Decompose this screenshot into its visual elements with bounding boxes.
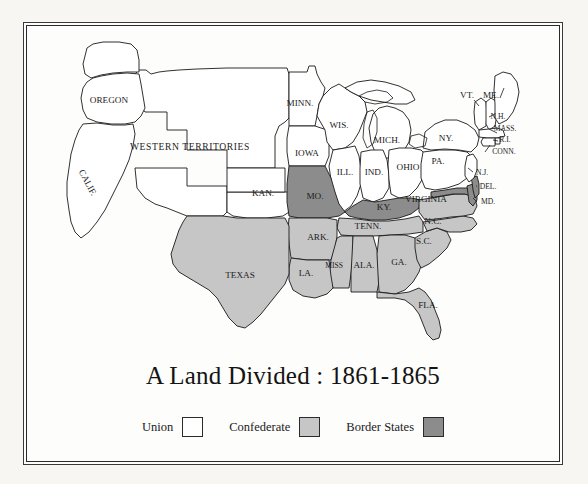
legend-swatch-border-states bbox=[423, 417, 444, 437]
state-label-fla: FLA. bbox=[418, 300, 438, 310]
state-label-pa: PA. bbox=[431, 156, 444, 166]
state-label-ri: R.I. bbox=[499, 135, 510, 144]
state-label-conn: CONN. bbox=[492, 147, 516, 156]
state-label-ark: ARK. bbox=[307, 232, 329, 242]
legend-swatch-union bbox=[182, 417, 203, 437]
state-label-kan: KAN. bbox=[252, 188, 274, 198]
state-label-texas: TEXAS bbox=[225, 270, 255, 280]
state-new-mexico-territory bbox=[135, 168, 227, 216]
state-label-mich: MICH. bbox=[374, 135, 400, 145]
map-legend: Union Confederate Border States bbox=[27, 417, 559, 437]
state-label-wis: WIS. bbox=[329, 120, 348, 130]
state-label-ind: IND. bbox=[365, 167, 384, 177]
state-label-nh: N.H. bbox=[491, 112, 506, 121]
state-iowa bbox=[287, 126, 329, 166]
state-south-carolina bbox=[415, 228, 451, 268]
state-label-ohio: OHIO bbox=[397, 162, 420, 172]
legend-label-confederate: Confederate bbox=[229, 420, 290, 435]
territory-washington bbox=[83, 42, 139, 78]
state-label-md: MD. bbox=[481, 197, 495, 206]
legend-item-border-states: Border States bbox=[346, 417, 444, 437]
state-label-ny: NY. bbox=[439, 133, 453, 143]
state-label-western-territories: WESTERN TERRITORIES bbox=[130, 141, 250, 152]
map-frame: OREGONCALIF.WESTERN TERRITORIESMINN.WIS.… bbox=[26, 25, 560, 462]
state-california bbox=[67, 123, 135, 238]
state-label-nj: N.J. bbox=[476, 168, 488, 177]
state-label-ala: ALA. bbox=[353, 260, 374, 270]
state-label-ga: GA. bbox=[391, 257, 407, 267]
state-label-la: LA. bbox=[299, 268, 314, 278]
state-label-mo: MO. bbox=[306, 191, 323, 201]
state-label-ill: ILL. bbox=[337, 167, 354, 177]
state-label-mass: MASS. bbox=[494, 124, 517, 133]
state-label-vt: VT. bbox=[460, 90, 474, 100]
state-connecticut bbox=[481, 138, 495, 146]
state-florida bbox=[377, 288, 441, 340]
state-label-oregon: OREGON bbox=[90, 95, 129, 105]
state-label-nc: N.C. bbox=[424, 216, 441, 226]
page-title: A Land Divided : 1861-1865 bbox=[27, 362, 559, 390]
state-label-miss: MISS bbox=[325, 261, 343, 270]
legend-swatch-confederate bbox=[299, 417, 320, 437]
state-label-sc: S.C. bbox=[416, 236, 432, 246]
state-label-tenn: TENN. bbox=[355, 221, 382, 231]
state-label-del: DEL. bbox=[480, 182, 497, 191]
legend-item-confederate: Confederate bbox=[229, 417, 320, 437]
united-states-map: OREGONCALIF.WESTERN TERRITORIESMINN.WIS.… bbox=[27, 26, 561, 356]
legend-label-union: Union bbox=[142, 420, 173, 435]
map-canvas: OREGONCALIF.WESTERN TERRITORIESMINN.WIS.… bbox=[27, 26, 561, 356]
state-label-iowa: IOWA bbox=[295, 148, 319, 158]
state-western-territories bbox=[135, 68, 289, 168]
state-label-ky: KY. bbox=[377, 202, 391, 212]
legend-item-union: Union bbox=[142, 417, 203, 437]
state-label-me: ME. bbox=[483, 90, 499, 100]
state-label-minn: MINN. bbox=[287, 98, 314, 108]
legend-label-border-states: Border States bbox=[346, 420, 414, 435]
state-label-virginia: VIRGINIA bbox=[405, 194, 447, 204]
